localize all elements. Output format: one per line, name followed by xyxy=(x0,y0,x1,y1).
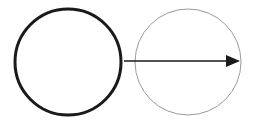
circle-right xyxy=(135,9,241,115)
diagram-canvas xyxy=(0,0,253,121)
arrow-head-icon xyxy=(226,55,240,67)
circle-left xyxy=(15,9,121,115)
